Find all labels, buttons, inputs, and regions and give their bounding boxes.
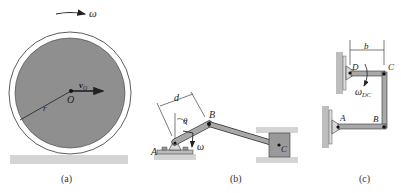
- omega-arrow-a: [56, 13, 85, 15]
- panel-a: ω vO O r (a): [9, 7, 131, 185]
- label-omega-b: ω: [197, 141, 204, 152]
- panel-b: A B d θ ω C (b): [150, 92, 298, 185]
- pin-b: [207, 122, 211, 126]
- caption-c: (c): [359, 173, 370, 185]
- panel-c: D C B A b ωDC (c): [322, 40, 395, 185]
- base-plate: [157, 150, 193, 154]
- label-a-c: A: [339, 113, 346, 123]
- guide-top: [256, 127, 298, 133]
- label-b-dim: b: [364, 41, 369, 51]
- guide-bottom: [256, 157, 298, 163]
- label-b-c: B: [373, 114, 379, 124]
- mechanics-figure: ω vO O r (a) A B d θ ω: [0, 0, 401, 193]
- ground-a: [10, 155, 128, 164]
- label-a-b: A: [150, 146, 158, 157]
- link-ab-c: [338, 124, 386, 129]
- label-omega-dc: ωDC: [355, 86, 372, 98]
- dim-d-ext-1: [157, 103, 172, 136]
- radius-label: r: [43, 103, 47, 113]
- label-c-c: C: [388, 62, 395, 72]
- label-theta: θ: [183, 116, 188, 126]
- label-c-b: C: [281, 144, 288, 154]
- pin-c-c: [382, 72, 386, 76]
- ground-b-left: [154, 154, 196, 160]
- omega-label-a: ω: [89, 7, 97, 19]
- wall-a-plate: [329, 110, 332, 144]
- wall-d-plate: [343, 56, 346, 90]
- wall-a: [322, 106, 329, 148]
- dim-d-ext-2: [191, 92, 205, 117]
- caption-a: (a): [61, 173, 72, 185]
- pin-b-c: [382, 125, 386, 129]
- label-d-c: D: [351, 62, 359, 72]
- bolt-2: [183, 147, 188, 150]
- caption-b: (b): [230, 173, 242, 185]
- label-d: d: [174, 92, 180, 103]
- wheel-disk: [15, 38, 125, 148]
- pin-a-c: [336, 125, 339, 128]
- label-b-b: B: [209, 109, 215, 120]
- link-cb: [382, 72, 387, 128]
- bolt-1: [162, 147, 167, 150]
- wall-d: [336, 52, 343, 94]
- pin-a: [173, 141, 176, 144]
- center-label-o: O: [67, 94, 74, 105]
